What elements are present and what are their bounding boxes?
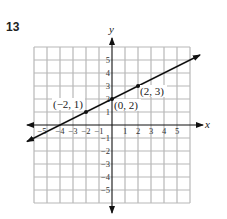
y-tick: −4 bbox=[101, 172, 111, 182]
x-tick: 2 bbox=[136, 126, 140, 136]
y-tick: −2 bbox=[101, 146, 110, 156]
y-tick: −1 bbox=[101, 133, 110, 143]
x-tick: 4 bbox=[162, 126, 167, 136]
y-tick: 5 bbox=[106, 55, 110, 65]
point-neg2-1 bbox=[84, 110, 88, 114]
y-tick: −3 bbox=[101, 159, 110, 169]
x-tick: 5 bbox=[175, 126, 179, 136]
coordinate-graph: y x −5 −4 −3 −2 −1 1 2 3 4 5 5 4 3 2 1 −… bbox=[0, 0, 227, 219]
y-tick: 1 bbox=[106, 107, 110, 117]
y-tick: −5 bbox=[101, 185, 110, 195]
point-label-2-3: (2, 3) bbox=[140, 85, 164, 98]
x-tick: −3 bbox=[68, 126, 77, 136]
x-tick: 3 bbox=[149, 126, 153, 136]
x-tick: 1 bbox=[123, 126, 127, 136]
point-label-0-2: (0, 2) bbox=[114, 99, 138, 112]
x-tick: −2 bbox=[81, 126, 90, 136]
x-axis-label: x bbox=[204, 118, 210, 130]
point-label-neg2-1: (−2, 1) bbox=[53, 98, 83, 111]
x-tick: −4 bbox=[55, 126, 65, 136]
y-axis-label: y bbox=[108, 23, 114, 35]
y-tick: 3 bbox=[106, 81, 110, 91]
